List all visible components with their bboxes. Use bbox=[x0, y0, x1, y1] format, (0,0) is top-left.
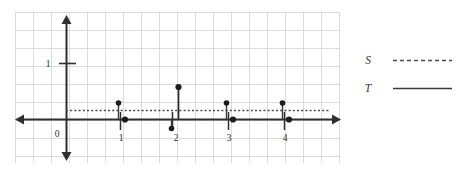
canvas-background bbox=[0, 0, 458, 173]
series-s-point-x1 bbox=[116, 100, 122, 106]
series-s-point-x3 bbox=[224, 100, 230, 106]
x-tick-label-3: 3 bbox=[227, 133, 232, 143]
x-tick-label-1: 1 bbox=[119, 133, 124, 143]
series-s-point-x4 bbox=[280, 100, 286, 106]
series-t-point-x1 bbox=[122, 116, 128, 122]
series-s-point-x2 bbox=[169, 126, 175, 132]
origin-label: 0 bbox=[55, 129, 60, 139]
x-tick-label-2: 2 bbox=[174, 133, 179, 143]
x-tick-label-4: 4 bbox=[283, 133, 288, 143]
legend-label-s: S bbox=[365, 54, 371, 66]
series-t-point-x3 bbox=[230, 116, 236, 122]
figure-container: 1 0 1 2 3 4 bbox=[0, 0, 458, 173]
series-t-point-x2 bbox=[175, 84, 181, 90]
stem-plot-svg: 1 0 1 2 3 4 bbox=[0, 0, 458, 173]
series-t-point-x4 bbox=[286, 116, 292, 122]
y-tick-label-1: 1 bbox=[46, 59, 51, 69]
